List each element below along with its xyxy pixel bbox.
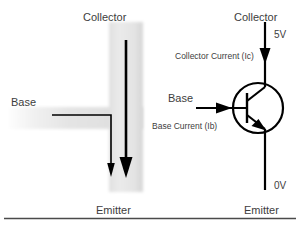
diagram-graphics (0, 0, 300, 228)
pictorial-base-label: Base (11, 97, 36, 108)
schematic-npn-symbol (196, 22, 283, 190)
transistor-diagram-figure: Collector Base Emitter Collector 5V Coll… (0, 0, 300, 228)
pictorial-collector-label: Collector (83, 12, 126, 23)
collector-current-arrowhead (260, 48, 271, 64)
schematic-collector-label: Collector (234, 12, 277, 23)
collector-voltage-label: 5V (274, 30, 286, 40)
collector-slash (247, 87, 265, 101)
schematic-emitter-label: Emitter (244, 205, 279, 216)
emitter-voltage-label: 0V (274, 181, 286, 191)
base-current-label: Base Current (Ib) (152, 122, 217, 131)
schematic-base-label: Base (168, 93, 193, 104)
base-current-arrowhead (216, 103, 232, 114)
collector-current-label: Collector Current (Ic) (175, 52, 254, 61)
pictorial-emitter-label: Emitter (96, 205, 131, 216)
